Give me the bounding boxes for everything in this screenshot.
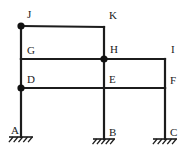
- hinge-joint-J: [17, 22, 24, 29]
- hinge-joint-H: [100, 55, 107, 62]
- node-label-H: H: [110, 43, 118, 55]
- node-label-J: J: [27, 8, 32, 20]
- hinge-joint-D: [17, 84, 24, 91]
- node-label-D: D: [27, 73, 35, 85]
- node-label-A: A: [11, 124, 19, 136]
- support-B: [93, 139, 115, 144]
- frame-members-group: [21, 26, 165, 139]
- node-label-B: B: [109, 126, 116, 138]
- structural-frame-diagram: ABCDEFGHIJK: [0, 0, 192, 154]
- support-C: [153, 139, 177, 144]
- node-label-E: E: [109, 73, 116, 85]
- frame-member-beam-JK: [21, 26, 104, 27]
- support-A: [9, 137, 33, 142]
- node-label-C: C: [170, 126, 177, 138]
- frame-supports-group: [9, 137, 177, 144]
- frame-drawing-canvas: ABCDEFGHIJK: [0, 0, 192, 154]
- node-label-K: K: [109, 9, 117, 21]
- node-label-I: I: [171, 43, 175, 55]
- node-label-G: G: [27, 44, 35, 56]
- node-label-F: F: [170, 74, 176, 86]
